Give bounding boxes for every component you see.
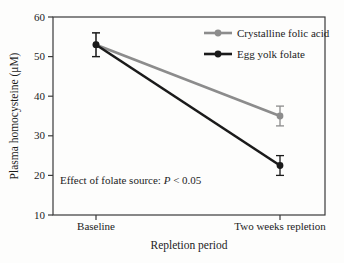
line-chart-figure: 605040302010BaselineTwo weeks repletionC… bbox=[0, 0, 344, 263]
y-tick-label: 10 bbox=[34, 209, 46, 221]
x-tick-label: Baseline bbox=[77, 220, 115, 232]
legend-label: Crystalline folic acid bbox=[237, 27, 330, 39]
legend-marker bbox=[215, 51, 222, 58]
y-axis-title: Plasma homocysteine (μM) bbox=[8, 53, 20, 180]
stat-annotation: Effect of folate source: P < 0.05 bbox=[60, 174, 201, 186]
data-point bbox=[277, 162, 284, 169]
legend-marker bbox=[215, 30, 222, 37]
x-axis-title: Repletion period bbox=[151, 239, 228, 251]
y-tick-label: 40 bbox=[34, 90, 46, 102]
y-tick-label: 20 bbox=[34, 169, 46, 181]
x-tick-label: Two weeks repletion bbox=[234, 220, 326, 232]
legend-label: Egg yolk folate bbox=[237, 48, 305, 60]
data-point bbox=[277, 113, 284, 120]
stat-annotation-prefix: Effect of folate source: bbox=[60, 174, 164, 186]
plot-area: 605040302010BaselineTwo weeks repletionC… bbox=[0, 0, 344, 263]
data-point bbox=[93, 41, 100, 48]
y-tick-label: 30 bbox=[34, 129, 46, 141]
y-tick-label: 60 bbox=[34, 11, 46, 23]
y-tick-label: 50 bbox=[34, 50, 46, 62]
stat-annotation-comparison: < 0.05 bbox=[170, 174, 201, 186]
